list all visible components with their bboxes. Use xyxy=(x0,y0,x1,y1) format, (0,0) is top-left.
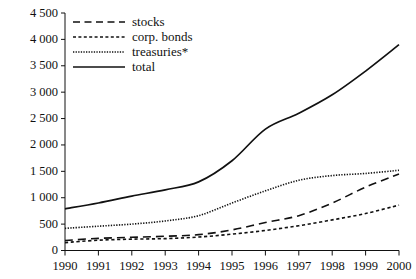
chart-legend: stocks corp. bonds treasuries* xyxy=(72,14,222,74)
x-axis-tick-label: 2000 xyxy=(379,260,416,273)
y-axis-tick-label: 4 500 xyxy=(30,7,58,20)
legend-swatch-treasuries xyxy=(72,46,126,58)
x-axis-ticks xyxy=(65,251,399,256)
y-axis-tick-label: 2 000 xyxy=(30,138,58,151)
legend-item-total: total xyxy=(72,59,222,74)
chart-series-layer xyxy=(65,45,399,243)
legend-swatch-total xyxy=(72,61,126,73)
y-axis-tick-label: 1 500 xyxy=(30,165,58,178)
series-line-stocks xyxy=(65,174,399,241)
y-axis-tick-label: 4 000 xyxy=(30,33,58,46)
legend-label-corp-bonds: corp. bonds xyxy=(126,30,193,43)
y-axis-tick-label: 1 000 xyxy=(30,191,58,204)
y-axis-tick-label: 3 500 xyxy=(30,59,58,72)
series-line-corp-bonds xyxy=(65,205,399,242)
y-axis-tick-label: 3 000 xyxy=(30,86,58,99)
legend-swatch-corp-bonds xyxy=(72,31,126,43)
y-axis-tick-label: 2 500 xyxy=(30,112,58,125)
y-axis-tick-label: 500 xyxy=(39,218,58,231)
y-axis-ticks xyxy=(61,13,65,251)
legend-item-treasuries: treasuries* xyxy=(72,44,222,59)
legend-swatch-stocks xyxy=(72,16,126,28)
legend-item-corp-bonds: corp. bonds xyxy=(72,29,222,44)
legend-label-stocks: stocks xyxy=(126,15,165,28)
legend-item-stocks: stocks xyxy=(72,14,222,29)
legend-label-total: total xyxy=(126,60,155,73)
y-axis-tick-label: 0 xyxy=(52,244,58,257)
legend-label-treasuries: treasuries* xyxy=(126,45,188,58)
